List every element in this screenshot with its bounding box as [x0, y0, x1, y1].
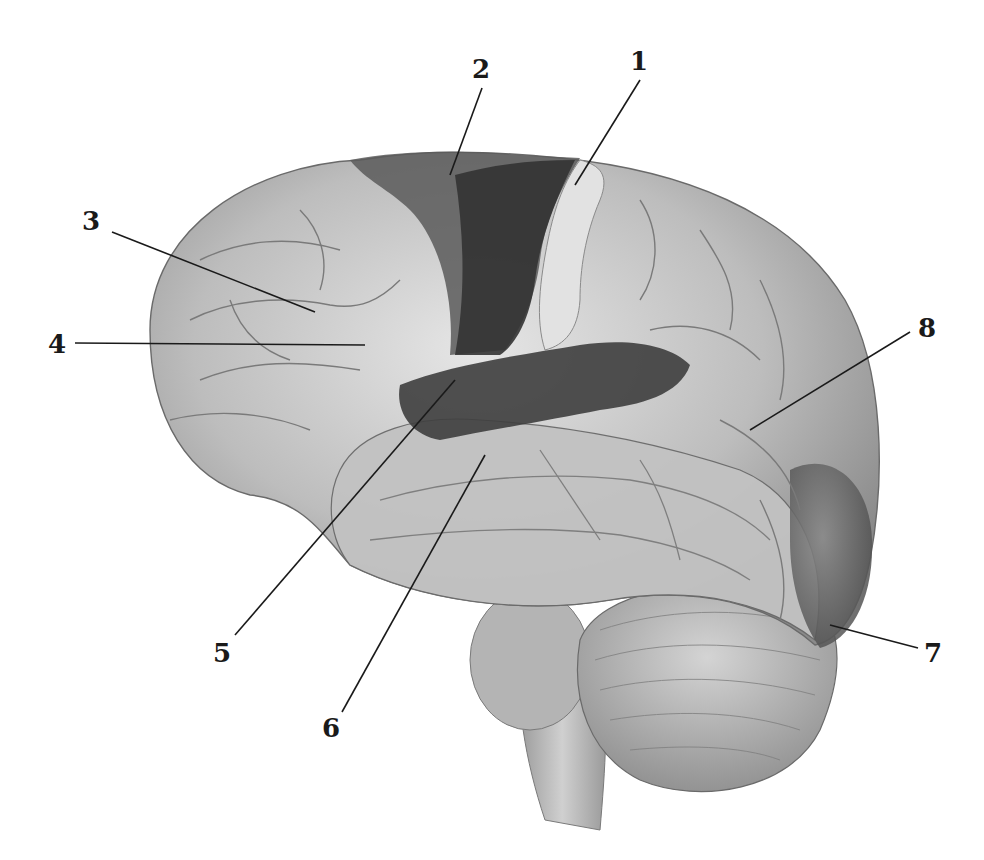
- label-1: 1: [630, 46, 648, 76]
- leader-7: [830, 625, 918, 648]
- label-4: 4: [48, 329, 66, 359]
- label-3: 3: [82, 206, 100, 236]
- pons: [470, 590, 590, 730]
- label-5: 5: [213, 638, 231, 668]
- label-2: 2: [472, 54, 490, 84]
- label-6: 6: [322, 713, 340, 743]
- label-7: 7: [924, 638, 942, 668]
- brain-diagram: 1 2 3 4 5 6 7 8: [0, 0, 984, 860]
- label-8: 8: [918, 313, 936, 343]
